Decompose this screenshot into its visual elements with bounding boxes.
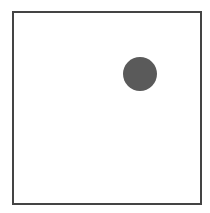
game-arena[interactable] <box>12 11 202 205</box>
circle-target[interactable] <box>123 57 157 91</box>
